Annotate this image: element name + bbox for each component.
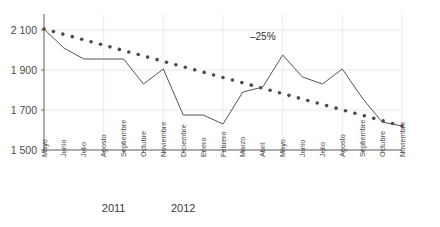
trend-dot	[315, 101, 319, 105]
y-axis-tick-label: 2 100	[11, 24, 37, 36]
trend-dot	[306, 99, 310, 103]
trend-dot	[118, 48, 122, 52]
trend-dot	[268, 88, 272, 92]
trend-dot	[297, 96, 301, 100]
trend-dot	[174, 63, 178, 67]
year-label: 2012	[171, 202, 195, 214]
trend-dot	[334, 106, 338, 110]
year-label: 2011	[102, 202, 126, 214]
trend-dot	[212, 73, 216, 77]
trend-dot	[325, 104, 329, 108]
trend-dot	[52, 30, 56, 34]
chart-container: 1 5001 7001 9002 100 MayoJunioJulioAgost…	[0, 0, 440, 227]
y-axis-tick-label: 1 700	[11, 104, 37, 116]
trend-dot	[80, 37, 84, 41]
x-axis-tick-label: Mayo	[278, 139, 287, 157]
x-axis-tick-label: Agosto	[338, 134, 347, 157]
trend-dot	[240, 81, 244, 85]
x-axis-tick-label: Febrero	[219, 131, 228, 157]
trend-dot	[221, 76, 225, 80]
x-axis-tick-label: Junio	[59, 140, 68, 157]
y-axis-tick-label: 1 500	[11, 144, 37, 156]
trend-dot	[372, 117, 376, 121]
x-axis-tick-label: Junio	[298, 140, 307, 157]
x-axis-tick-label: Octubre	[139, 131, 148, 157]
trend-dot	[231, 78, 235, 82]
trend-dot	[193, 68, 197, 72]
trend-dot	[165, 60, 169, 64]
x-axis-tick-label: Noviembre	[159, 122, 168, 157]
trend-dot	[344, 109, 348, 113]
y-axis-tick-label: 1 900	[11, 64, 37, 76]
trend-dot	[70, 35, 74, 39]
x-axis-tick-label: Julio	[318, 142, 327, 157]
x-axis-tick-label: Agosto	[99, 134, 108, 157]
trend-dot	[61, 32, 65, 36]
trend-dot	[89, 40, 93, 44]
trend-dot	[136, 53, 140, 57]
x-axis-tick-label: Julio	[79, 142, 88, 157]
x-axis-tick-label: Septiembre	[358, 120, 367, 157]
x-axis-tick-label: Septiembre	[119, 120, 128, 157]
year-group-labels: 20112012	[102, 202, 196, 214]
y-axis-tick-labels: 1 5001 7001 9002 100	[11, 24, 44, 156]
trend-dot	[363, 114, 367, 118]
x-axis-tick-label: Enero	[199, 138, 208, 157]
trend-dot	[146, 55, 150, 59]
x-axis-tick-label: Marzo	[238, 137, 247, 157]
trend-change-label: –25%	[250, 31, 276, 42]
trend-dot	[278, 91, 282, 95]
x-axis-tick-label: Abril	[258, 142, 267, 157]
trend-dot	[202, 71, 206, 75]
trend-dot	[108, 45, 112, 49]
trend-dot	[99, 43, 103, 47]
x-axis-tick-label: Mayo	[40, 139, 49, 157]
trend-dot	[353, 111, 357, 115]
x-axis-tick-label: Diciembre	[179, 124, 188, 157]
grid-lines	[44, 14, 402, 150]
trend-dot	[287, 94, 291, 98]
x-axis-tick-label: Octubre	[378, 131, 387, 157]
line-chart: 1 5001 7001 9002 100 MayoJunioJulioAgost…	[0, 0, 440, 227]
trend-dot	[249, 83, 253, 87]
trend-dot	[155, 58, 159, 62]
chart-annotations: –25%	[250, 31, 276, 42]
trend-dot	[184, 65, 188, 69]
trend-dot	[127, 50, 131, 54]
